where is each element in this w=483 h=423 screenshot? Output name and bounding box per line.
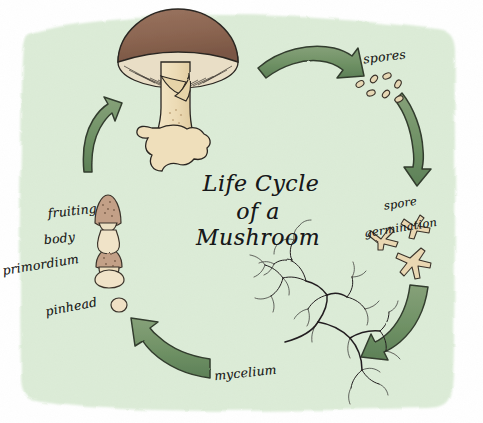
title-line-2: of a Mushroom: [180, 199, 336, 251]
pinhead-illustration: [111, 298, 127, 312]
diagram-title: Life Cycle of a Mushroom: [186, 171, 336, 251]
label-spore-germination-line-1: spore: [383, 194, 418, 213]
arrow-left: [83, 97, 122, 172]
arrow-right-upper: [395, 93, 431, 186]
arrow-bottom-left: [131, 318, 210, 378]
mushroom-illustration: [118, 9, 238, 171]
arrow-top-right: [258, 46, 364, 78]
label-fruiting-body: fruiting body: [29, 189, 103, 274]
label-fruiting-body-line-2: body: [43, 228, 100, 247]
label-fruiting-body-line-1: fruiting: [47, 201, 98, 221]
label-spore-germination: spore germination: [366, 180, 442, 262]
label-spore-germination-line-2: germination: [364, 216, 438, 239]
arrow-right-lower: [361, 285, 428, 360]
title-line-1: Life Cycle: [186, 171, 336, 197]
illustration-canvas: Life Cycle of a Mushroom spores spore ge…: [0, 0, 483, 423]
